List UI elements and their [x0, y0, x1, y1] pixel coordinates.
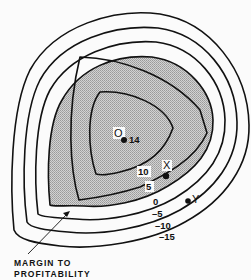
- label-0: 0: [153, 196, 158, 207]
- contour-0-profitable-region: [48, 57, 213, 207]
- point-o-label: O: [114, 127, 123, 139]
- point-x-label: X: [163, 159, 171, 171]
- point-o-dot: [121, 137, 127, 143]
- annotation-line-1: MARGIN TO: [14, 258, 71, 268]
- point-x-dot: [163, 173, 169, 179]
- point-o-value: 14: [129, 134, 140, 145]
- point-y: Y: [185, 193, 200, 205]
- point-y-label: Y: [192, 193, 200, 205]
- annotation-line-2: PROFITABILITY: [14, 269, 91, 279]
- label-minus-5: –5: [152, 208, 163, 219]
- point-y-dot: [185, 198, 191, 204]
- label-10: 10: [138, 166, 149, 177]
- label-minus-10: –10: [155, 220, 171, 231]
- arrow-head-icon: [63, 211, 70, 217]
- label-minus-15: –15: [159, 231, 176, 242]
- label-5: 5: [146, 181, 152, 192]
- annotation-arrow-line: [28, 213, 68, 254]
- contour-diagram: 10 5 0 –5 –10 –15 O 14 X Y MARGIN TO PRO…: [0, 0, 251, 280]
